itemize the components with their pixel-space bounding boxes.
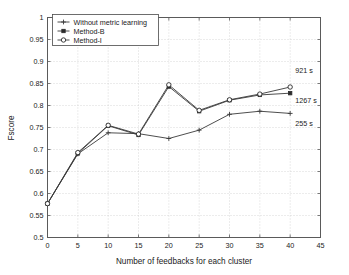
series-2 <box>46 85 292 205</box>
marker-circle-icon <box>136 132 140 136</box>
marker-circle-icon <box>288 85 292 89</box>
x-tick-label: 20 <box>165 241 173 250</box>
y-tick-label: 1 <box>40 13 44 22</box>
y-tick-label: 0.75 <box>30 123 44 132</box>
y-tick-label: 0.65 <box>30 167 44 176</box>
x-tick-label: 0 <box>46 241 50 250</box>
axis-frame <box>48 18 321 238</box>
x-tick-label: 40 <box>286 241 294 250</box>
marker-square-icon <box>288 91 291 94</box>
marker-circle-icon <box>45 201 49 205</box>
grid-lines <box>48 18 321 238</box>
marker-circle-icon <box>76 150 80 154</box>
x-tick-label: 15 <box>135 241 143 250</box>
y-tick-label: 0.95 <box>30 35 44 44</box>
tick-labels: 0.50.550.60.650.70.750.80.850.90.9510510… <box>30 13 325 249</box>
marker-circle-icon <box>106 123 110 127</box>
marker-square-icon <box>62 29 65 32</box>
legend-label: Method-B <box>74 27 105 36</box>
x-tick-label: 10 <box>104 241 112 250</box>
x-tick-label: 35 <box>256 241 264 250</box>
y-axis-title: Fscore <box>7 115 16 140</box>
plot-frame <box>48 18 321 238</box>
annotation-label: 921 s <box>295 66 313 75</box>
annotation-label: 1267 s <box>295 96 317 105</box>
marker-circle-icon <box>258 92 262 96</box>
y-tick-label: 0.6 <box>34 189 44 198</box>
chart-figure: 0.50.550.60.650.70.750.80.850.90.9510510… <box>0 0 349 275</box>
marker-circle-icon <box>61 38 65 42</box>
legend-label: Without metric learning <box>74 18 148 27</box>
marker-circle-icon <box>197 108 201 112</box>
marker-circle-icon <box>227 98 231 102</box>
annotations: 921 s1267 s255 s <box>295 66 317 129</box>
y-tick-label: 0.85 <box>30 79 44 88</box>
y-tick-label: 0.7 <box>34 145 44 154</box>
x-tick-label: 30 <box>226 241 234 250</box>
y-tick-label: 0.55 <box>30 211 44 220</box>
fscore-line-chart: 0.50.550.60.650.70.750.80.850.90.9510510… <box>0 0 349 275</box>
marker-circle-icon <box>167 83 171 87</box>
annotation-label: 255 s <box>295 119 313 128</box>
x-axis-title: Number of feedbacks for each cluster <box>116 257 252 266</box>
y-tick-label: 0.8 <box>34 101 44 110</box>
x-tick-label: 25 <box>195 241 203 250</box>
x-tick-label: 45 <box>317 241 325 250</box>
series-line <box>48 111 291 203</box>
y-tick-label: 0.9 <box>34 57 44 66</box>
legend-label: Method-I <box>74 36 102 45</box>
tick-marks <box>48 18 321 238</box>
y-tick-label: 0.5 <box>34 233 44 242</box>
x-tick-label: 5 <box>76 241 80 250</box>
legend: Without metric learningMethod-BMethod-I <box>53 15 159 46</box>
